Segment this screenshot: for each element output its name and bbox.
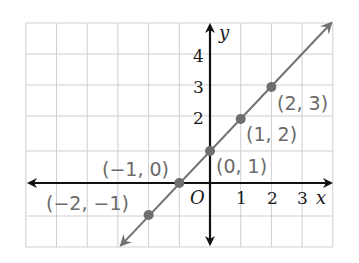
x-tick-label: 1 <box>236 188 247 208</box>
data-point <box>205 146 215 156</box>
data-point <box>144 210 154 220</box>
y-tick-label: 3 <box>193 77 204 97</box>
y-axis-label: y <box>218 22 230 43</box>
y-tick-label: 4 <box>193 46 204 66</box>
point-label: (−1, 0) <box>102 158 169 180</box>
y-tick-label: 2 <box>193 108 204 128</box>
point-label: (2, 3) <box>277 92 328 114</box>
data-point <box>174 178 184 188</box>
x-tick-label: 2 <box>267 188 278 208</box>
coordinate-plane: 1 2 3 2 3 4 O x y (−2, −1) (−1, 0) (0, 1… <box>0 0 359 263</box>
data-point <box>236 114 246 124</box>
data-point <box>266 82 276 92</box>
point-label: (1, 2) <box>246 123 297 145</box>
x-tick-label: 3 <box>297 188 308 208</box>
point-label: (−2, −1) <box>46 192 129 214</box>
origin-label: O <box>190 187 205 208</box>
point-label: (0, 1) <box>216 155 267 177</box>
x-axis-label: x <box>316 187 326 208</box>
